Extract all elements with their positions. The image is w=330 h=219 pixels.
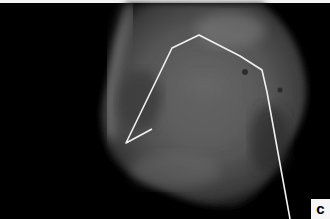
internal-structure (130, 152, 220, 188)
dark-spot (242, 69, 248, 75)
dark-spot (278, 88, 283, 93)
radiograph-image (0, 0, 330, 219)
internal-structure (195, 12, 265, 48)
internal-structure (118, 70, 162, 130)
radiograph-panel: c (0, 0, 330, 219)
panel-label: c (311, 199, 330, 219)
internal-structure (250, 105, 290, 175)
internal-structure (160, 90, 240, 150)
